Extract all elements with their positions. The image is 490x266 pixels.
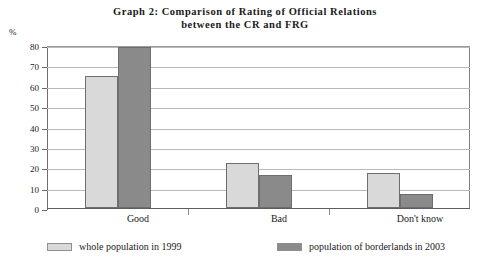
bar-don-t-know-series-1 <box>400 194 433 208</box>
y-tick-80 <box>42 47 47 48</box>
y-tick-label-0: 0 <box>35 206 40 215</box>
gridline-70 <box>47 67 470 68</box>
y-tick-label-60: 60 <box>30 83 39 92</box>
y-tick-50 <box>42 108 47 109</box>
y-axis-unit-label: % <box>9 27 17 37</box>
bar-good-series-0 <box>85 76 118 208</box>
legend-label-series-0: whole population in 1999 <box>79 241 182 253</box>
y-tick-10 <box>42 190 47 191</box>
x-axis-label-don-t-know: Don't know <box>360 213 480 225</box>
x-axis-label-good: Good <box>78 213 198 225</box>
legend-item-population-borderlands-2003: population of borderlands in 2003 <box>277 241 445 253</box>
y-tick-0 <box>42 210 47 211</box>
legend-swatch-series-1 <box>277 243 302 251</box>
chart-title: Graph 2: Comparison of Rating of Officia… <box>0 5 490 31</box>
chart-legend: whole population in 1999 population of b… <box>0 241 490 255</box>
y-tick-label-80: 80 <box>30 43 39 52</box>
y-tick-label-40: 40 <box>30 124 39 133</box>
y-tick-label-20: 20 <box>30 165 39 174</box>
x-axis-label-bad: Bad <box>219 213 339 225</box>
legend-item-whole-population-1999: whole population in 1999 <box>47 241 182 253</box>
bar-don-t-know-series-0 <box>367 173 400 208</box>
bar-bad-series-1 <box>259 175 292 208</box>
chart-title-line-1: Graph 2: Comparison of Rating of Officia… <box>0 5 490 18</box>
legend-swatch-series-0 <box>47 243 72 251</box>
gridline-80 <box>47 47 470 48</box>
y-tick-70 <box>42 67 47 68</box>
y-tick-label-30: 30 <box>30 144 39 153</box>
y-tick-30 <box>42 149 47 150</box>
y-tick-label-70: 70 <box>30 63 39 72</box>
y-tick-label-10: 10 <box>30 185 39 194</box>
y-tick-label-50: 50 <box>30 104 39 113</box>
plot-area: 80706050403020100 <box>47 46 470 209</box>
y-tick-60 <box>42 88 47 89</box>
legend-label-series-1: population of borderlands in 2003 <box>309 241 445 253</box>
y-tick-20 <box>42 169 47 170</box>
bar-good-series-1 <box>118 47 151 208</box>
y-tick-40 <box>42 129 47 130</box>
chart-title-line-2: between the CR and FRG <box>0 18 490 31</box>
bar-bad-series-0 <box>226 163 259 208</box>
